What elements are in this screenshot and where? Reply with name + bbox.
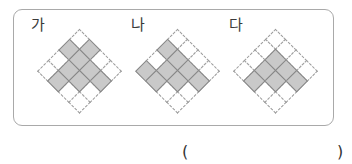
option-label-da: 다: [229, 16, 243, 34]
answer-open-paren: (: [182, 142, 188, 162]
answer-blank[interactable]: [195, 142, 335, 162]
option-label-na: 나: [131, 16, 145, 34]
answer-close-paren: ): [337, 142, 343, 162]
option-label-ga: 가: [31, 16, 45, 34]
